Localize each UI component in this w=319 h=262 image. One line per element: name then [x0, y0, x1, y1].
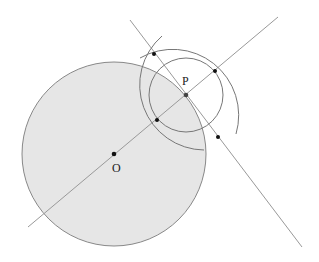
point-d: [216, 135, 220, 139]
point-p: [184, 93, 189, 98]
label-p: P: [182, 74, 189, 88]
point-c: [152, 52, 156, 56]
point-b: [213, 69, 217, 73]
geometry-diagram: O P: [0, 0, 319, 262]
point-a: [155, 118, 159, 122]
point-o: [112, 152, 117, 157]
label-o: O: [112, 161, 121, 175]
